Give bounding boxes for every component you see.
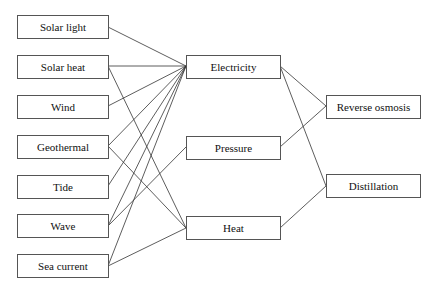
- edge-pressure-reverse-osmosis: [280, 106, 326, 147]
- node-label: Wave: [51, 220, 76, 232]
- edge-tide-electricity: [108, 66, 186, 186]
- node-label: Geothermal: [37, 141, 89, 153]
- node-label: Sea current: [38, 260, 88, 272]
- node-solar-heat: Solar heat: [17, 55, 109, 79]
- node-solar-light: Solar light: [17, 15, 109, 39]
- node-label: Pressure: [215, 142, 252, 154]
- node-label: Heat: [223, 222, 244, 234]
- edge-solar-light-electricity: [108, 27, 186, 66]
- node-pressure: Pressure: [186, 136, 281, 160]
- node-wind: Wind: [17, 95, 109, 119]
- edge-wind-electricity: [108, 66, 186, 106]
- node-heat: Heat: [186, 216, 281, 240]
- edge-sea-current-electricity: [108, 66, 186, 266]
- node-distillation: Distillation: [326, 174, 421, 198]
- node-wave: Wave: [17, 214, 109, 238]
- edge-electricity-reverse-osmosis: [280, 66, 326, 106]
- node-label: Reverse osmosis: [337, 101, 411, 113]
- node-electricity: Electricity: [186, 55, 281, 79]
- edge-geothermal-electricity: [108, 66, 186, 146]
- node-label: Solar light: [40, 21, 86, 33]
- node-label: Electricity: [211, 61, 257, 73]
- node-geothermal: Geothermal: [17, 135, 109, 159]
- node-sea-current: Sea current: [17, 254, 109, 278]
- edge-heat-distillation: [280, 186, 326, 228]
- node-tide: Tide: [17, 175, 109, 199]
- edge-sea-current-heat: [108, 228, 186, 266]
- node-label: Wind: [51, 101, 75, 113]
- node-reverse-osmosis: Reverse osmosis: [326, 95, 421, 119]
- node-label: Distillation: [349, 180, 399, 192]
- node-label: Tide: [53, 181, 73, 193]
- node-label: Solar heat: [41, 61, 85, 73]
